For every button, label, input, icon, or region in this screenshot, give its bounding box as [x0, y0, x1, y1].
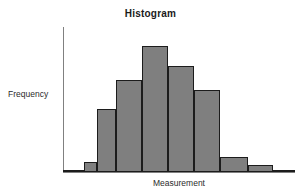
histogram-bar: [63, 170, 84, 172]
histogram-bar: [97, 109, 116, 172]
histogram-bar: [168, 66, 194, 172]
histogram-figure: Histogram Frequency Measurement: [0, 0, 301, 194]
page-title: Histogram: [0, 8, 301, 19]
histogram-bars: [63, 27, 295, 172]
histogram-bar: [248, 165, 273, 172]
y-axis-label: Frequency: [8, 89, 48, 99]
x-axis-label: Measurement: [63, 178, 295, 188]
histogram-bar: [273, 170, 295, 172]
histogram-bar: [84, 162, 97, 172]
x-axis-line: [63, 172, 295, 173]
histogram-bar: [142, 46, 168, 172]
histogram-bar: [116, 80, 142, 172]
histogram-bar: [194, 90, 220, 172]
histogram-bar: [220, 157, 248, 172]
